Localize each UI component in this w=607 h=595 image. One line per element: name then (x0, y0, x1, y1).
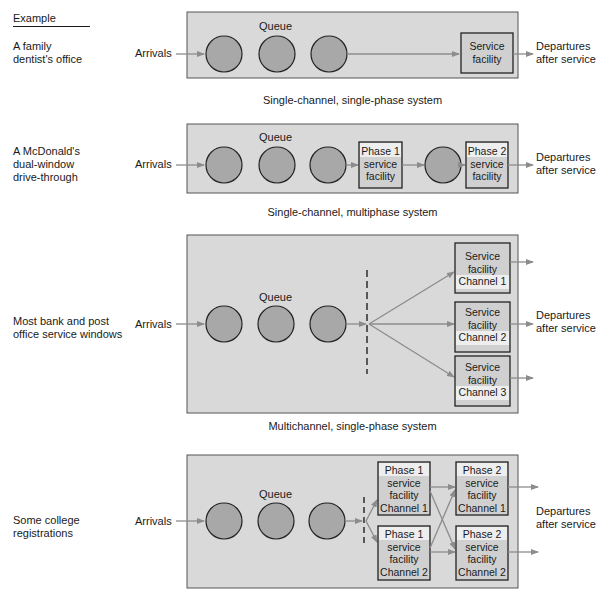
phase2-facility: Phase 2 service facility (466, 145, 508, 183)
queue-label-4: Queue (259, 488, 292, 501)
departures-label-4: Departures after service (536, 505, 596, 531)
service-facility-1: Service facility (461, 40, 513, 65)
queue-diagram-graphics (0, 0, 607, 595)
departures-label-2: Departures after service (536, 151, 596, 177)
caption-1: Single-channel, single-phase system (187, 94, 518, 106)
departures-label-3: Departures after service (536, 309, 596, 335)
departures-label-1: Departures after service (536, 40, 596, 66)
queue-label-1: Queue (259, 20, 292, 33)
phase1-facility: Phase 1 service facility (359, 145, 402, 183)
queue-label-2: Queue (259, 131, 292, 144)
service-facility-channel-2: Service facility Channel 2 (455, 306, 510, 344)
caption-2: Single-channel, multiphase system (187, 206, 518, 218)
phase2-channel1-facility: Phase 2 service facility Channel 1 (456, 464, 508, 514)
phase1-channel2-facility: Phase 1 service facility Channel 2 (378, 528, 430, 578)
arrivals-label-2: Arrivals (135, 158, 172, 171)
arrivals-label-1: Arrivals (135, 47, 172, 60)
queue-label-3: Queue (259, 291, 292, 304)
phase1-channel1-facility: Phase 1 service facility Channel 1 (378, 464, 430, 514)
service-facility-channel-3: Service facility Channel 3 (455, 361, 510, 399)
arrivals-label-4: Arrivals (135, 515, 172, 528)
service-facility-channel-1: Service facility Channel 1 (455, 250, 510, 288)
caption-3: Multichannel, single-phase system (187, 420, 518, 432)
phase2-channel2-facility: Phase 2 service facility Channel 2 (456, 528, 508, 578)
arrivals-label-3: Arrivals (135, 318, 172, 331)
